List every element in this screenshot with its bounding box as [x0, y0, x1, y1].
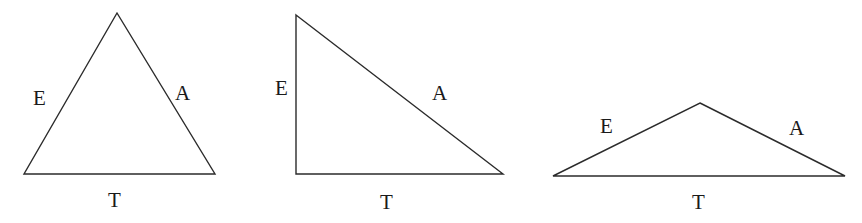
triangle-figure: E A T E A T E A T [0, 0, 862, 223]
triangle-3-side-label-t: T [692, 192, 705, 213]
triangle-1-side-label-t: T [108, 190, 121, 211]
triangle-1-side-label-a: A [175, 83, 190, 104]
triangle-2-side-label-a: A [432, 83, 447, 104]
triangle-2-side-label-e: E [275, 78, 288, 99]
triangle-2-side-label-t: T [380, 192, 393, 213]
triangle-1-side-label-e: E [33, 88, 46, 109]
triangle-3-side-label-e: E [600, 116, 613, 137]
vertex-label-layer: E A T E A T E A T [0, 0, 862, 223]
triangle-3-side-label-a: A [789, 118, 804, 139]
